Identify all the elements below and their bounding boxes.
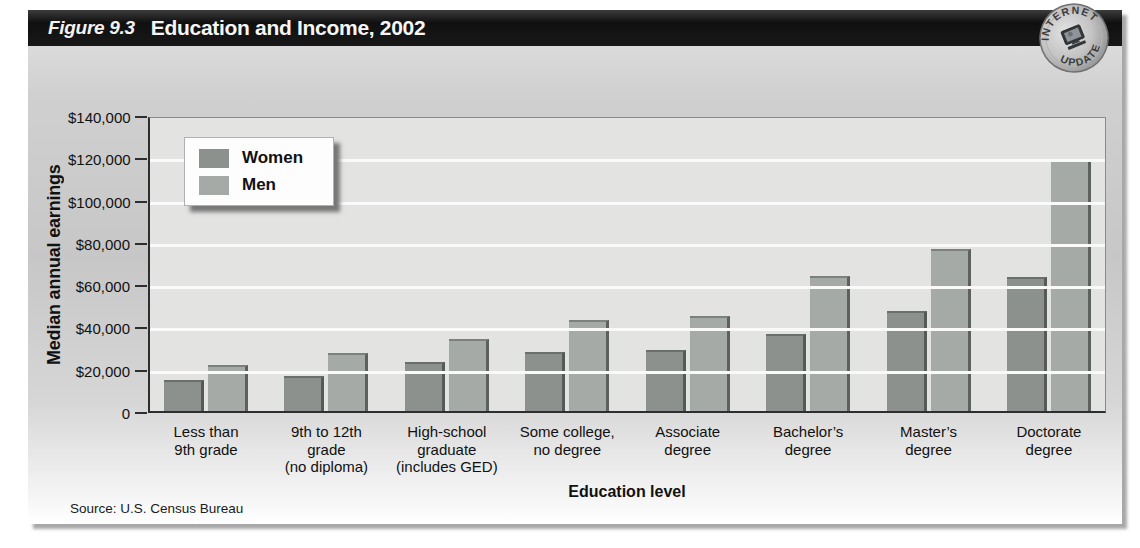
x-category-label: Less than 9th grade (137, 423, 275, 458)
legend-swatch-men (199, 176, 229, 195)
y-axis-tick (135, 243, 147, 245)
bar-women (405, 362, 445, 411)
y-tick-label: $140,000 (68, 109, 130, 126)
legend-label-women: Women (242, 148, 303, 168)
y-tick-label: $120,000 (68, 151, 130, 168)
y-axis-tick (135, 412, 147, 414)
figure-number: Figure 9.3 (48, 17, 135, 39)
y-axis-title: Median annual earnings (44, 117, 65, 413)
y-axis-tick (135, 116, 147, 118)
legend-label-men: Men (242, 175, 276, 195)
y-axis-tick (135, 158, 147, 160)
y-tick-label: $20,000 (68, 363, 130, 380)
x-axis-title: Education level (148, 483, 1106, 501)
x-category-label: High-school graduate (includes GED) (378, 423, 516, 476)
y-axis-tick (135, 370, 147, 372)
y-axis-tick (135, 327, 147, 329)
legend: Women Men (184, 137, 334, 206)
bar-women (1007, 277, 1047, 411)
x-category-label: Associate degree (619, 423, 757, 458)
x-category-label: 9th to 12th grade (no diploma) (257, 423, 395, 476)
internet-update-badge: INTERNET UPDATE (1038, 2, 1110, 74)
y-tick-label: $80,000 (68, 236, 130, 253)
bar-women (887, 311, 927, 411)
bar-men (810, 276, 850, 411)
bar-women (284, 376, 324, 411)
x-category-label: Master’s degree (860, 423, 998, 458)
bar-men (449, 339, 489, 411)
y-tick-label: $100,000 (68, 194, 130, 211)
figure-title: Education and Income, 2002 (151, 16, 426, 40)
x-category-label: Bachelor’s degree (739, 423, 877, 458)
y-axis-tick (135, 285, 147, 287)
legend-item-women: Women (199, 148, 303, 168)
bar-women (646, 350, 686, 411)
legend-swatch-women (199, 149, 229, 168)
gridline (150, 286, 1105, 289)
y-tick-label: 0 (68, 405, 130, 422)
gridline (150, 328, 1105, 331)
bar-men (569, 320, 609, 411)
figure-title-bar: Figure 9.3 Education and Income, 2002 (28, 10, 1122, 46)
source-note: Source: U.S. Census Bureau (70, 501, 243, 516)
x-category-label: Doctorate degree (980, 423, 1118, 458)
y-axis-tick (135, 201, 147, 203)
legend-item-men: Men (199, 175, 303, 195)
figure: Figure 9.3 Education and Income, 2002 IN… (28, 10, 1122, 524)
y-tick-label: $40,000 (68, 320, 130, 337)
bar-women (525, 352, 565, 411)
bar-men (328, 353, 368, 411)
y-tick-label: $60,000 (68, 278, 130, 295)
gridline (150, 371, 1105, 374)
bar-women (164, 380, 204, 411)
x-category-label: Some college, no degree (498, 423, 636, 458)
gridline (150, 244, 1105, 247)
